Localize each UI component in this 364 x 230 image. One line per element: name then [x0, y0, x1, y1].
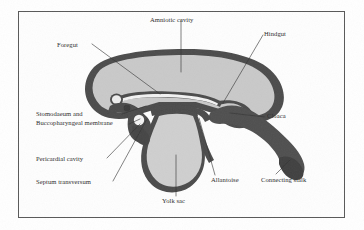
yolk-sac-region — [141, 109, 205, 192]
label-yolk-sac: Yolk sac — [162, 197, 185, 205]
label-septum-transversum: Septum transversum — [36, 178, 91, 186]
label-buccopharyngeal-membrane: Buccopharyngeal membrane — [36, 119, 113, 127]
label-stomodaeum: Stomodaeum and — [36, 110, 83, 118]
label-allantoise: Allantoise — [211, 176, 239, 184]
label-hindgut: Hindgut — [264, 30, 286, 38]
connecting-stalk-band — [209, 106, 305, 181]
label-amniotic-cavity: Amniotic cavity — [150, 16, 193, 24]
label-foregut: Foregut — [57, 41, 78, 49]
label-pericardial-cavity: Pericardial cavity — [36, 155, 83, 163]
figure-page: Amniotic cavity Hindgut Foregut Cloaca S… — [0, 0, 364, 230]
label-cloaca: Cloaca — [267, 112, 286, 120]
buccopharyngeal-membrane — [124, 105, 131, 111]
label-connecting-stalk: Connecting stalk — [261, 176, 306, 184]
